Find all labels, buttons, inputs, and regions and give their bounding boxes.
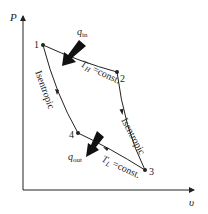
heat-in-label: qin xyxy=(77,26,88,39)
heat-out-arrow xyxy=(86,131,104,157)
process-4-1-label: Isentropic xyxy=(33,69,57,111)
state-label-1: 1 xyxy=(34,39,39,50)
state-label-4: 4 xyxy=(69,129,74,140)
state-point-3 xyxy=(143,168,147,172)
state-label-3: 3 xyxy=(149,166,154,177)
heat-out-label: qout xyxy=(68,151,82,164)
direction-arrow-3-4 xyxy=(103,147,109,151)
x-axis-label: υ xyxy=(189,196,194,208)
process-3-4-label: TL =const. xyxy=(99,153,142,182)
state-point-4 xyxy=(76,131,80,135)
process-1-2-label: TH =const. xyxy=(78,58,122,88)
state-point-1 xyxy=(41,43,45,47)
y-axis-label: P xyxy=(9,11,17,23)
pv-diagram: P υ 1 2 3 4 qin qout TH =const. Isentrop… xyxy=(0,0,208,214)
process-2-3-label: Isentropic xyxy=(119,116,148,157)
